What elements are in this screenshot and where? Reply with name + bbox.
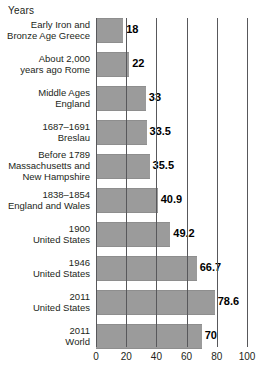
x-tick-label: 80 <box>202 351 232 362</box>
x-tick-label: 0 <box>81 351 111 362</box>
x-axis-tick-layer: 020406080100 <box>0 0 266 390</box>
x-tick-label: 60 <box>172 351 202 362</box>
bar-chart: Years Early Iron and Bronze Age Greece18… <box>0 0 266 390</box>
x-tick-label: 40 <box>141 351 171 362</box>
x-tick-label: 20 <box>111 351 141 362</box>
x-tick-label: 100 <box>232 351 262 362</box>
